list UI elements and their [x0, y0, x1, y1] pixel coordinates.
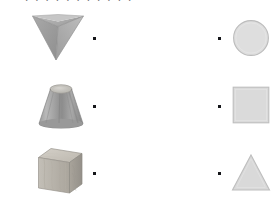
connector-dot-cube[interactable]: [93, 172, 96, 175]
matching-worksheet: - . . . . . . . . . . .: [0, 0, 278, 203]
solid-truncated-cone[interactable]: [33, 80, 89, 132]
inverted-pyramid-icon: [31, 13, 85, 63]
connector-dot-cone[interactable]: [93, 105, 96, 108]
flat-shape-triangle[interactable]: [231, 153, 271, 193]
flat-shape-square[interactable]: [232, 86, 270, 124]
connector-dot-circle[interactable]: [218, 37, 221, 40]
connector-dot-triangle[interactable]: [218, 172, 221, 175]
cut-off-header-text: - . . . . . . . . . . .: [0, 0, 278, 7]
solid-cube[interactable]: [35, 147, 87, 199]
header-text: - . . . . . . . . . . .: [14, 0, 133, 3]
flat-shape-circle[interactable]: [232, 19, 270, 57]
circle-icon: [232, 19, 270, 57]
triangle-icon: [231, 153, 271, 193]
truncated-cone-icon: [33, 80, 89, 132]
square-icon: [232, 86, 270, 124]
solid-inverted-pyramid[interactable]: [31, 13, 85, 63]
connector-dot-pyramid[interactable]: [93, 37, 96, 40]
connector-dot-square[interactable]: [218, 105, 221, 108]
cube-icon: [35, 147, 87, 199]
